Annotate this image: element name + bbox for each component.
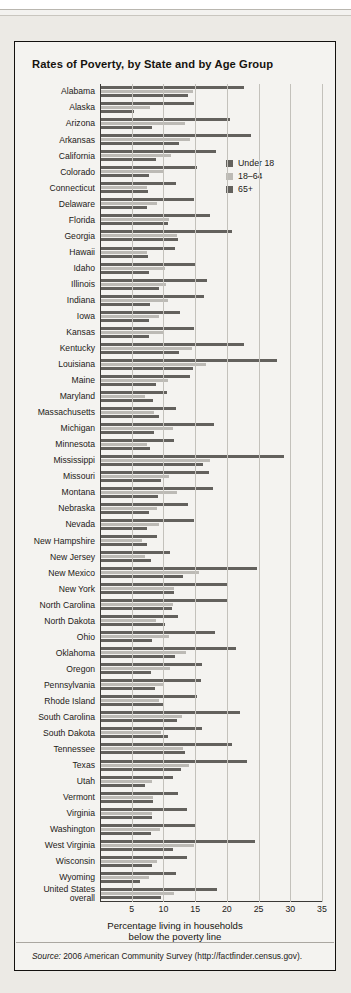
category-label: Utah: [77, 777, 95, 786]
bar-under-18: [101, 359, 277, 362]
bar-row: [101, 581, 322, 597]
category-label: Vermont: [63, 793, 95, 802]
bar-row: [101, 677, 322, 693]
bar-18-64: [101, 315, 159, 318]
category-label: Washington: [50, 825, 95, 834]
category-label: Virginia: [66, 809, 95, 818]
bar-row: [101, 100, 322, 116]
bar-65-: [101, 335, 149, 338]
bar-under-18: [101, 888, 217, 891]
bar-18-64: [101, 218, 169, 221]
bar-18-64: [101, 619, 156, 622]
category-label: Colorado: [60, 168, 95, 177]
bar-18-64: [101, 395, 145, 398]
bar-under-18: [101, 808, 187, 811]
bar-under-18: [101, 824, 195, 827]
bar-row: [101, 260, 322, 276]
category-label: Nevada: [65, 520, 95, 529]
gridline-15: [195, 84, 196, 902]
bar-row: [101, 837, 322, 853]
bar-row: [101, 453, 322, 469]
category-label: Rhode Island: [44, 697, 95, 706]
bar-row: [101, 116, 322, 132]
bar-row: [101, 693, 322, 709]
bar-18-64: [101, 715, 182, 718]
bar-65-: [101, 832, 151, 835]
bar-18-64: [101, 507, 157, 510]
category-label: South Dakota: [43, 729, 95, 738]
bar-under-18: [101, 760, 247, 763]
category-label: New York: [59, 585, 95, 594]
bar-65-: [101, 768, 181, 771]
bar-under-18: [101, 856, 187, 859]
bar-row: [101, 629, 322, 645]
gridline-10: [163, 84, 164, 902]
bar-65-: [101, 607, 172, 610]
bar-65-: [101, 864, 152, 867]
bar-under-18: [101, 86, 244, 89]
bar-under-18: [101, 567, 257, 570]
category-label: New Mexico: [48, 569, 95, 578]
bar-rows: [101, 84, 322, 901]
bar-row: [101, 437, 322, 453]
bar-65-: [101, 463, 203, 466]
bar-65-: [101, 319, 149, 322]
bar-under-18: [101, 872, 176, 875]
bar-65-: [101, 174, 149, 177]
bar-under-18: [101, 263, 196, 266]
bar-65-: [101, 351, 179, 354]
x-axis-ticks: 5101520253035: [100, 904, 322, 918]
category-label: Kansas: [66, 328, 95, 337]
category-label: New Hampshire: [34, 537, 95, 546]
category-label: United Statesoverall: [43, 885, 95, 902]
bar-row: [101, 549, 322, 565]
bar-18-64: [101, 780, 152, 783]
bar-18-64: [101, 747, 183, 750]
page-edge-strip: [0, 0, 351, 10]
category-label: Minnesota: [55, 440, 95, 449]
bar-row: [101, 228, 322, 244]
category-label: Indiana: [67, 296, 95, 305]
bar-65-: [101, 719, 177, 722]
bar-18-64: [101, 555, 145, 558]
bar-65-: [101, 735, 168, 738]
x-tick-label-25: 25: [254, 904, 264, 914]
figure-title: Rates of Poverty, by State and by Age Gr…: [32, 58, 273, 70]
bar-row: [101, 357, 322, 373]
bar-65-: [101, 751, 185, 754]
bar-18-64: [101, 251, 147, 254]
category-label: Wisconsin: [56, 857, 95, 866]
bar-65-: [101, 367, 193, 370]
category-label: Delaware: [59, 200, 95, 209]
bar-under-18: [101, 535, 157, 538]
bar-row: [101, 613, 322, 629]
bar-row: [101, 308, 322, 324]
source-note: Source: 2006 American Community Survey (…: [32, 951, 302, 961]
source-label: Source:: [32, 951, 61, 961]
bar-row: [101, 469, 322, 485]
bar-65-: [101, 255, 148, 258]
bar-18-64: [101, 347, 192, 350]
bar-65-: [101, 543, 147, 546]
category-label: Maine: [72, 376, 95, 385]
bar-65-: [101, 415, 159, 418]
x-tick-label-10: 10: [159, 904, 169, 914]
bar-65-: [101, 142, 179, 145]
category-label: Florida: [69, 216, 95, 225]
bar-65-: [101, 687, 155, 690]
bar-row: [101, 132, 322, 148]
bar-18-64: [101, 379, 168, 382]
bar-18-64: [101, 411, 154, 414]
bar-under-18: [101, 695, 197, 698]
bar-65-: [101, 575, 183, 578]
bar-65-: [101, 559, 151, 562]
bar-under-18: [101, 182, 176, 185]
bar-18-64: [101, 234, 177, 237]
bar-under-18: [101, 503, 188, 506]
bar-row: [101, 389, 322, 405]
bar-under-18: [101, 743, 232, 746]
category-label: Montana: [62, 488, 95, 497]
bar-row: [101, 725, 322, 741]
bar-row: [101, 757, 322, 773]
bar-under-18: [101, 663, 202, 666]
